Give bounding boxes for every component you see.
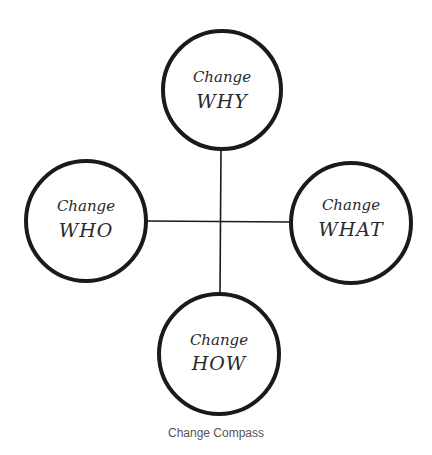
- node-label-line2: WHAT: [318, 218, 384, 240]
- node-label-line2: HOW: [191, 352, 247, 374]
- horizontal-connector: [147, 221, 290, 222]
- node-label-line1: Change: [190, 331, 248, 349]
- node-label-line2: WHY: [196, 90, 249, 112]
- node-change-what: Change WHAT: [291, 163, 411, 283]
- diagram-canvas: Change WHY Change WHO Change WHAT Change…: [0, 0, 432, 455]
- node-label-line1: Change: [57, 197, 115, 215]
- node-change-how: Change HOW: [159, 294, 279, 414]
- node-change-who: Change WHO: [26, 161, 146, 281]
- node-change-why: Change WHY: [163, 31, 281, 149]
- node-label-line2: WHO: [59, 219, 114, 241]
- node-label-line1: Change: [322, 196, 380, 214]
- node-label-line1: Change: [193, 68, 251, 86]
- diagram-caption: Change Compass: [0, 426, 432, 440]
- change-compass-diagram: Change WHY Change WHO Change WHAT Change…: [0, 0, 432, 455]
